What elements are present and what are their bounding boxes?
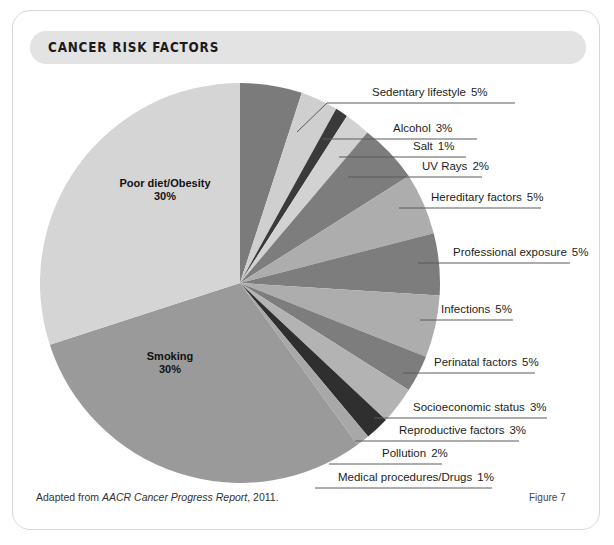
source-note-publication: AACR Cancer Progress Report: [102, 491, 247, 503]
callout-reproductive-factors-value: 3%: [509, 424, 526, 436]
callout-medical-procedures-drugs: Medical procedures/Drugs1%: [338, 471, 494, 484]
pie-chart: [0, 0, 614, 545]
callout-sedentary-lifestyle-name: Sedentary lifestyle: [372, 86, 466, 98]
callout-pollution-value: 2%: [431, 447, 448, 459]
callout-perinatal-factors-value: 5%: [522, 356, 539, 368]
callout-socioeconomic-status-value: 3%: [530, 401, 547, 413]
callout-alcohol: Alcohol3%: [393, 122, 452, 135]
pie-label-poor-diet-obesity: Poor diet/Obesity 30%: [80, 177, 250, 203]
callout-infections-name: Infections: [441, 303, 490, 315]
pie-label-poor-diet-obesity-value: 30%: [80, 190, 250, 203]
callout-medical-procedures-drugs-value: 1%: [477, 471, 494, 483]
callout-medical-procedures-drugs-name: Medical procedures/Drugs: [338, 471, 472, 483]
callout-uv-rays-value: 2%: [472, 160, 489, 172]
pie-slices: [40, 83, 440, 483]
callout-salt: Salt1%: [413, 140, 454, 153]
callout-sedentary-lifestyle: Sedentary lifestyle5%: [372, 86, 488, 99]
callout-professional-exposure-value: 5%: [572, 246, 589, 258]
callout-pollution: Pollution2%: [382, 447, 448, 460]
pie-label-smoking-value: 30%: [110, 363, 230, 376]
callout-sedentary-lifestyle-value: 5%: [471, 86, 488, 98]
callout-pollution-name: Pollution: [382, 447, 426, 459]
callout-professional-exposure: Professional exposure5%: [453, 246, 588, 259]
callout-salt-value: 1%: [438, 140, 455, 152]
figure-page: CANCER RISK FACTORS: [0, 0, 614, 545]
pie-label-smoking: Smoking 30%: [110, 350, 230, 376]
callout-infections-value: 5%: [495, 303, 512, 315]
callout-perinatal-factors-name: Perinatal factors: [434, 356, 517, 368]
source-note: Adapted from AACR Cancer Progress Report…: [36, 491, 279, 503]
source-note-prefix: Adapted from: [36, 491, 102, 503]
callout-reproductive-factors: Reproductive factors3%: [399, 424, 526, 437]
pie-label-poor-diet-obesity-name: Poor diet/Obesity: [80, 177, 250, 190]
callout-reproductive-factors-name: Reproductive factors: [399, 424, 504, 436]
callout-salt-name: Salt: [413, 140, 433, 152]
pie-label-smoking-name: Smoking: [110, 350, 230, 363]
callout-alcohol-value: 3%: [436, 122, 453, 134]
callout-infections: Infections5%: [441, 303, 512, 316]
source-note-suffix: , 2011.: [247, 491, 278, 503]
callout-socioeconomic-status-name: Socioeconomic status: [413, 401, 525, 413]
figure-number: Figure 7: [529, 492, 566, 503]
callout-hereditary-factors-name: Hereditary factors: [431, 191, 522, 203]
callout-professional-exposure-name: Professional exposure: [453, 246, 567, 258]
callout-hereditary-factors: Hereditary factors5%: [431, 191, 543, 204]
callout-alcohol-name: Alcohol: [393, 122, 431, 134]
callout-hereditary-factors-value: 5%: [527, 191, 544, 203]
callout-socioeconomic-status: Socioeconomic status3%: [413, 401, 547, 414]
callout-perinatal-factors: Perinatal factors5%: [434, 356, 539, 369]
callout-uv-rays-name: UV Rays: [422, 160, 467, 172]
callout-uv-rays: UV Rays2%: [422, 160, 489, 173]
